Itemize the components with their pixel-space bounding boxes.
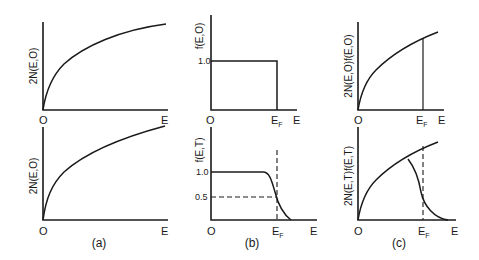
panel-b-bottom: f(E,T) 1.0 0.5 O EF E (b)	[194, 127, 317, 250]
axes	[358, 127, 456, 220]
origin-label: O	[206, 114, 215, 126]
density-of-states-curve	[43, 24, 166, 110]
origin-label: O	[39, 225, 48, 237]
origin-label: O	[354, 114, 363, 126]
panel-caption: (a)	[92, 236, 107, 250]
y-axis-label: 2N(E,O)	[28, 158, 39, 195]
origin-label: O	[354, 225, 363, 237]
origin-label: O	[39, 114, 48, 126]
origin-label: O	[207, 225, 216, 237]
fermi-energy-label: EF	[271, 114, 283, 128]
density-of-states-curve	[43, 126, 165, 220]
x-axis-label-top: E	[161, 114, 168, 126]
panel-c-bottom: 2N(E,T)f(E,T) O EF E (c)	[343, 127, 458, 250]
tick-1-0: 1.0	[196, 167, 209, 177]
panel-c-top: 2N(E,O)f(E,O) O EF E	[343, 22, 445, 128]
panel-caption: (c)	[392, 236, 406, 250]
density-of-states-envelope	[358, 142, 438, 220]
tick-0-5: 0.5	[195, 192, 208, 202]
fermi-energy-label: EF	[418, 225, 430, 239]
occupied-states-curve	[358, 32, 438, 110]
tick-1-0: 1.0	[198, 56, 211, 66]
x-axis-label: E	[310, 225, 317, 237]
fermi-dirac-curve	[211, 172, 291, 220]
x-axis-label: E	[161, 225, 168, 237]
panel-a-top: 2N(E,O) O	[28, 22, 168, 126]
panel-a-bottom: 2N(E,O) O E E (a)	[28, 114, 168, 250]
panel-b-top: f(E,O) 1.0 O EF E	[194, 15, 300, 128]
fermi-energy-label: EF	[416, 114, 428, 128]
x-axis-label: E	[438, 114, 445, 126]
thermal-occupied-curve	[408, 159, 448, 220]
axes	[211, 15, 297, 110]
y-axis-label: 2N(E,T)f(E,T)	[343, 146, 354, 206]
x-axis-label: E	[451, 225, 458, 237]
y-axis-label: 2N(E,O)	[28, 48, 39, 85]
fermi-dirac-diagram: 2N(E,O) O 2N(E,O) O E E (a) f(E,O) 1.0 O…	[0, 0, 479, 260]
axes	[211, 127, 317, 220]
fermi-energy-label: EF	[272, 225, 284, 239]
x-axis-label: E	[293, 114, 300, 126]
y-axis-label: f(E,O)	[194, 23, 205, 50]
step-function	[211, 61, 277, 110]
y-axis-label: f(E,T)	[194, 138, 205, 163]
y-axis-label: 2N(E,O)f(E,O)	[343, 34, 354, 97]
panel-caption: (b)	[245, 236, 260, 250]
